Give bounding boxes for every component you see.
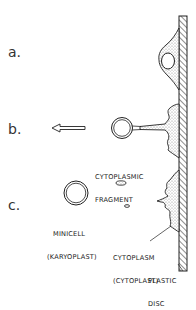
plastic-disc [179,16,187,271]
enucleating-cell [112,104,180,158]
minicell-label: MINICELL (KARYOPLAST) [47,216,97,269]
step-a-label: a. [8,44,21,60]
nucleus-ring [112,118,133,139]
step-b-label: b. [8,121,21,137]
nucleus [162,53,175,69]
plastic-disc-label: PLASTIC DISC [148,263,176,310]
left-arrow-icon [52,124,85,132]
step-c-label: c. [8,197,20,213]
minicell [64,181,88,205]
cytoplasm-leader [150,226,171,241]
cytoplast [157,170,179,232]
intact-cell [159,28,179,90]
cytoplasmic-fragment-label: CYTOPLASMIC FRAGMENT [95,159,144,212]
